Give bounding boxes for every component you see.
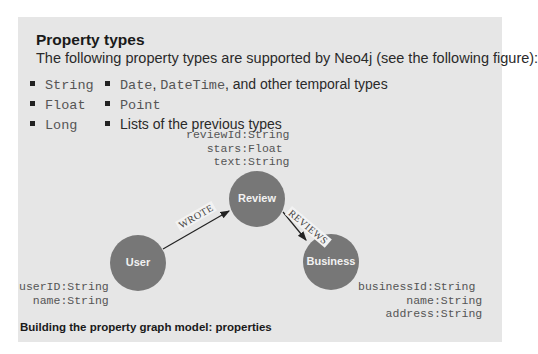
- business-properties: businessId:String name:String address:St…: [358, 280, 482, 321]
- figure-caption: Building the property graph model: prope…: [20, 321, 272, 333]
- review-properties: reviewId:String stars:Float text:String: [186, 128, 290, 169]
- user-properties: userID:String name:String: [19, 280, 109, 307]
- node-review-label: Review: [227, 192, 287, 204]
- node-user-label: User: [108, 256, 168, 268]
- node-business-label: Business: [301, 255, 361, 267]
